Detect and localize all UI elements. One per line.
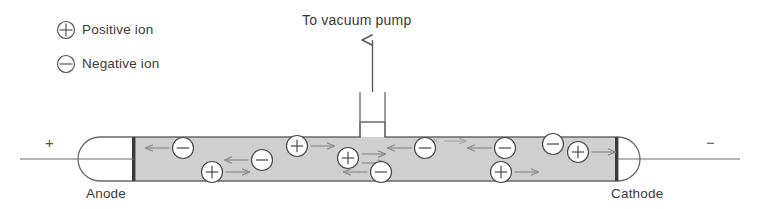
gas-discharge-tube-diagram: Positive ion Negative ion To vacuum pump… <box>0 0 760 209</box>
tube-svg <box>0 0 760 209</box>
negative-ion <box>543 134 564 155</box>
